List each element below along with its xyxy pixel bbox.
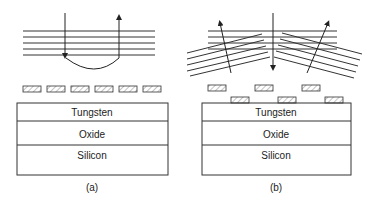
layer-tungsten-a: Tungsten — [71, 107, 112, 118]
layer-silicon-b: Silicon — [261, 150, 290, 161]
reflection-arc-a — [66, 58, 119, 69]
diagram-canvas: Tungsten Oxide Silicon (a) — [0, 0, 374, 207]
grating-lines-a — [23, 31, 155, 55]
hatched-blocks-a — [23, 86, 161, 92]
panel-b: Tungsten Oxide Silicon (b) — [187, 13, 362, 193]
hatched-blocks-b-bottom — [231, 97, 343, 103]
hatched-blocks-b-top — [208, 85, 320, 91]
grating-lines-b-right-tilted — [274, 33, 362, 78]
panel-a: Tungsten Oxide Silicon (a) — [17, 13, 168, 193]
grating-lines-b-left-tilted — [187, 34, 270, 76]
layer-oxide-b: Oxide — [263, 129, 290, 140]
caption-a: (a) — [86, 182, 98, 193]
layer-silicon-a: Silicon — [77, 150, 106, 161]
caption-b: (b) — [270, 182, 282, 193]
layer-tungsten-b: Tungsten — [255, 107, 296, 118]
layer-oxide-a: Oxide — [79, 129, 106, 140]
